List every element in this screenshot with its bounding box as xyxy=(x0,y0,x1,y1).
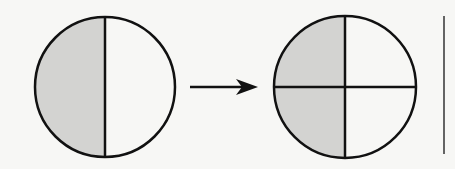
arrow-right-icon xyxy=(190,79,258,95)
left-circle-halves xyxy=(35,17,175,157)
left-shaded-half xyxy=(35,17,105,157)
fraction-diagram xyxy=(0,0,455,169)
right-circle-quarters xyxy=(274,16,416,158)
